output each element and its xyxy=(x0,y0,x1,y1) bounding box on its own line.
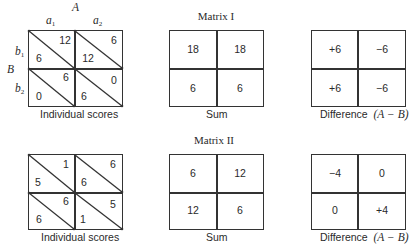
cell-a2b2-score-a: 5 xyxy=(98,198,128,210)
sum-cell: 6 xyxy=(178,167,208,179)
difference-caption: Difference (A − B) xyxy=(320,231,409,243)
difference-cell: −4 xyxy=(320,167,350,179)
sum-cell: 12 xyxy=(178,204,208,216)
cell-a1b2-score-b: 6 xyxy=(24,213,54,225)
cell-a2b1-score-a: 6 xyxy=(98,158,128,170)
cell-a1b1-score-a: 1 xyxy=(51,158,81,170)
cell-a1b2-score-a: 6 xyxy=(51,195,81,207)
individual-scores-caption: Individual scores xyxy=(41,231,119,243)
sum-caption: Sum xyxy=(206,231,228,243)
sum-cell: 12 xyxy=(225,167,255,179)
difference-cell: 0 xyxy=(320,204,350,216)
cell-a2b1-score-b: 6 xyxy=(69,176,99,188)
difference-cell: 0 xyxy=(367,167,397,179)
difference-cell: +4 xyxy=(367,204,397,216)
cell-a1b1-score-b: 5 xyxy=(23,176,53,188)
cell-a2b2-score-b: 1 xyxy=(68,213,98,225)
sum-cell: 6 xyxy=(225,204,255,216)
matrix-2-title: Matrix II xyxy=(154,134,274,146)
